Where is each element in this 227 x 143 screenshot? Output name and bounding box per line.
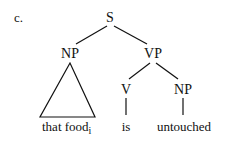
edge-vp-np bbox=[156, 63, 178, 79]
example-label: c. bbox=[14, 10, 23, 25]
leaf-is: is bbox=[122, 119, 131, 134]
node-v: V bbox=[121, 82, 131, 97]
node-s: S bbox=[106, 10, 114, 25]
leaf-untouched: untouched bbox=[157, 119, 212, 134]
node-vp: VP bbox=[144, 46, 162, 61]
syntax-tree: c. S NP VP V NP that foodi is untouched bbox=[0, 0, 227, 143]
node-np-object: NP bbox=[174, 82, 192, 97]
edge-vp-v bbox=[129, 63, 150, 79]
leaf-that-food: that foodi bbox=[42, 119, 92, 136]
subscript-index: i bbox=[89, 125, 92, 136]
edge-s-vp bbox=[114, 26, 147, 44]
node-np-subject: NP bbox=[61, 46, 79, 61]
triangle-collapsed-np bbox=[40, 63, 95, 117]
edge-s-np bbox=[76, 26, 107, 44]
